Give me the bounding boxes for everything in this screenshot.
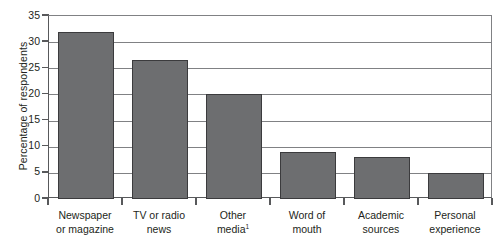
y-axis-tick-label: 35 [6,10,40,20]
y-axis-tick-label: 15 [6,114,40,124]
x-axis-label: Othermedia1 [196,209,270,236]
bar [206,94,262,199]
x-axis-tick [491,198,492,205]
x-axis-label: Academicsources [344,209,418,236]
bar [428,173,484,199]
x-axis-tick [195,198,196,205]
gridline [49,94,491,95]
gridline [49,68,491,69]
y-axis-tick-label: 10 [6,140,40,150]
x-axis-label: Newspaperor magazine [48,209,122,236]
footnote-marker: 1 [245,222,249,229]
bar-chart: Percentage of respondents 05101520253035… [0,0,499,244]
x-axis-tick [47,198,48,205]
x-axis-tick [121,198,122,205]
y-axis-tick-label: 0 [6,193,40,203]
y-axis-tick-label: 5 [6,166,40,176]
plot-area [48,15,492,198]
x-axis-label: Word ofmouth [270,209,344,236]
bar [132,60,188,199]
x-axis-label: Personalexperience [418,209,492,236]
x-axis-tick [269,198,270,205]
y-axis-tick-label: 25 [6,62,40,72]
gridline [49,42,491,43]
gridline [49,173,491,174]
x-axis-tick [343,198,344,205]
bar [354,157,410,199]
gridline [49,121,491,122]
bar [58,32,114,199]
x-axis-label: TV or radionews [122,209,196,236]
bar [280,152,336,199]
x-axis-tick [417,198,418,205]
gridline [49,147,491,148]
y-axis-tick-label: 30 [6,36,40,46]
y-axis-tick-label: 20 [6,88,40,98]
